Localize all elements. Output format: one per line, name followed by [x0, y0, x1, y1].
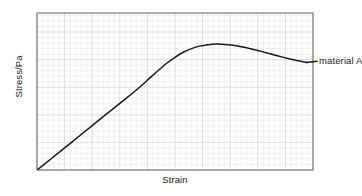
y-axis-label: Stress/Pa [13, 37, 24, 117]
series-annotation-material-a: material A [319, 55, 362, 66]
x-axis-label: Strain [140, 174, 210, 185]
